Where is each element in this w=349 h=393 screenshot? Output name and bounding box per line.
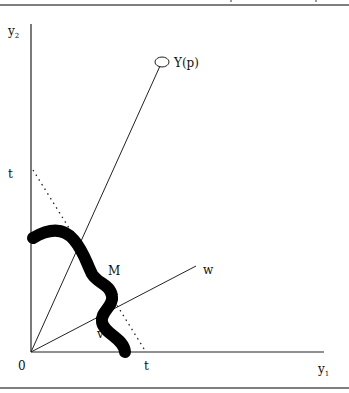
y1-axis-label: y1 [317, 362, 329, 378]
y2-axis-label: y2 [7, 24, 19, 40]
Yp-label: Y(p) [173, 56, 199, 70]
ray-to-Yp [31, 66, 160, 352]
x-intercept-t-label: t [144, 359, 149, 373]
M-label: M [108, 264, 120, 278]
origin-label: 0 [18, 359, 26, 373]
w-label: w [203, 263, 214, 277]
thick-frontier-curve [33, 231, 125, 352]
diagram-canvas: y2 Y(p) t M w v 0 t y1 [0, 0, 349, 393]
y-intercept-t-label: t [8, 167, 13, 181]
v-label: v [96, 327, 104, 341]
production-point-circle [155, 57, 169, 67]
diagram-figure: y2 Y(p) t M w v 0 t y1 [0, 0, 349, 393]
